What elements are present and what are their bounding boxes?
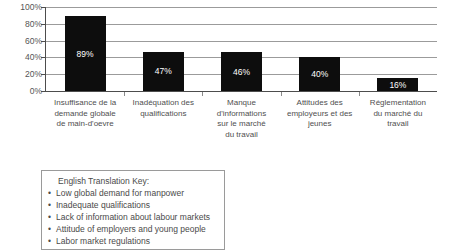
category-label-line: Réglementation (359, 98, 437, 109)
x-axis-category-labels: Insuffisance de lademande globalede main… (46, 98, 437, 154)
bar-slot: 47% (124, 7, 202, 91)
category-label-line: du travail (202, 130, 280, 141)
x-axis-tick (202, 92, 203, 96)
category-label-line: Attitudes des (281, 98, 359, 109)
category-label-line: qualifications (124, 109, 202, 120)
category-label-line: travail (359, 119, 437, 130)
translation-key-item-label: Attitude of employers and young people (56, 224, 206, 234)
bar-slot: 89% (46, 7, 124, 91)
translation-key-item-label: Low global demand for manpower (56, 188, 184, 198)
category-label-line: employeurs et des (281, 109, 359, 120)
translation-key-item: •Lack of information about labour market… (48, 211, 218, 223)
category-label-line: sur le marché (202, 119, 280, 130)
y-axis-tick (41, 91, 45, 92)
translation-key-item: •Inadequate qualifications (48, 199, 218, 211)
bar[interactable]: 16% (377, 78, 418, 91)
translation-key-item: •Attitude of employers and young people (48, 223, 218, 235)
translation-key-item-label: Inadequate qualifications (56, 200, 150, 210)
category-label-line: du marché du (359, 109, 437, 120)
category-label-line: de main-d'oevre (46, 119, 124, 130)
bar-slot: 40% (281, 7, 359, 91)
translation-key-list: •Low global demand for manpower•Inadequa… (48, 187, 218, 247)
bars-layer: 89%47%46%40%16% (46, 7, 437, 91)
bullet-icon: • (48, 223, 56, 235)
y-axis-tick (41, 41, 45, 42)
bar-value-label: 46% (221, 67, 262, 77)
bar-slot: 16% (359, 7, 437, 91)
translation-key-box: English Translation Key: •Low global dem… (41, 170, 225, 250)
y-tick-label: 20% (0, 70, 42, 79)
y-axis-tick (41, 7, 45, 8)
y-tick-label: 60% (0, 36, 42, 45)
translation-key-item-label: Lack of information about labour markets (56, 212, 210, 222)
category-label: Réglementationdu marché dutravail (359, 98, 437, 130)
bar-value-label: 40% (299, 69, 340, 79)
bullet-icon: • (48, 187, 56, 199)
bar[interactable]: 46% (221, 52, 262, 91)
x-axis-tick (281, 92, 282, 96)
category-label-line: Manque (202, 98, 280, 109)
x-axis-line (45, 91, 437, 92)
x-axis-tick (124, 92, 125, 96)
y-axis-tick (41, 74, 45, 75)
category-label: Inadéquation desqualifications (124, 98, 202, 119)
y-tick-label: 80% (0, 19, 42, 28)
bar-slot: 46% (202, 7, 280, 91)
y-axis-tick (41, 24, 45, 25)
bar[interactable]: 89% (65, 16, 106, 91)
category-label-line: Insuffisance de la (46, 98, 124, 109)
bar-value-label: 16% (377, 80, 418, 90)
bar-value-label: 89% (65, 49, 106, 59)
category-label-line: jeunes (281, 119, 359, 130)
y-axis-tick (41, 57, 45, 58)
category-label-line: d'informations (202, 109, 280, 120)
bullet-icon: • (48, 235, 56, 247)
translation-key-item: •Labor market regulations (48, 235, 218, 247)
y-axis-tick-labels: 100%80%60%40%20%0% (0, 0, 42, 92)
category-label-line: Inadéquation des (124, 98, 202, 109)
y-tick-label: 100% (0, 3, 42, 12)
bullet-icon: • (48, 199, 56, 211)
translation-key-item: •Low global demand for manpower (48, 187, 218, 199)
y-tick-label: 0% (0, 87, 42, 96)
x-axis-tick (359, 92, 360, 96)
category-label-line: demande globale (46, 109, 124, 120)
translation-key-item-label: Labor market regulations (56, 236, 150, 246)
bar-chart: 100%80%60%40%20%0% 89%47%46%40%16% Insuf… (0, 0, 451, 160)
category-label: Attitudes desemployeurs et desjeunes (281, 98, 359, 130)
bar[interactable]: 40% (299, 57, 340, 91)
y-tick-label: 40% (0, 53, 42, 62)
category-label: Insuffisance de lademande globalede main… (46, 98, 124, 130)
translation-key-title: English Translation Key: (48, 175, 218, 187)
bar[interactable]: 47% (143, 52, 184, 91)
category-label: Manqued'informationssur le marchédu trav… (202, 98, 280, 140)
bar-value-label: 47% (143, 66, 184, 76)
bullet-icon: • (48, 211, 56, 223)
